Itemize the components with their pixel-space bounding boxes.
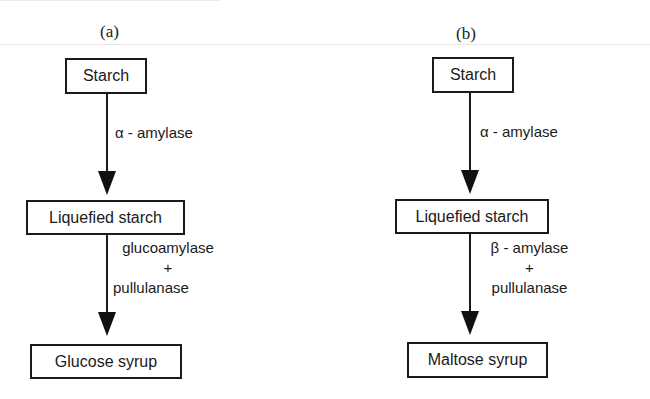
panel-a-arrow-1-head-icon [98,171,116,195]
panel-b-step-maltose-syrup: Maltose syrup [407,342,548,378]
panel-b-arrow-1-head-icon [461,170,479,194]
panel-b-enzyme-2-line-2: + [482,258,577,278]
header-rule [0,44,650,45]
panel-b-arrow-2-head-icon [461,311,479,335]
panel-a-arrow-2-shaft [106,235,108,315]
panel-b-enzyme-2-line-1: β - amylase [482,238,577,258]
panel-b-label: (b) [456,24,476,44]
panel-a-step-liquefied-starch: Liquefied starch [26,200,185,235]
panel-b-arrow-2-shaft [469,234,471,314]
panel-b-enzyme-2: β - amylase + pullulanase [482,238,577,298]
panel-a-step-starch: Starch [65,58,147,94]
panel-b-enzyme-2-line-3: pullulanase [482,278,577,298]
panel-b-arrow-1-shaft [469,93,471,173]
panel-b-step-liquefied-starch: Liquefied starch [395,199,549,234]
top-rule [0,0,220,1]
panel-a-enzyme-1: α - amylase [115,123,193,143]
panel-a-enzyme-2-line-3: pullulanase [113,278,223,298]
panel-a-enzyme-2: glucoamylase + pullulanase [113,238,223,298]
panel-b-enzyme-1: α - amylase [480,122,558,142]
panel-a-arrow-1-shaft [106,94,108,174]
panel-a-enzyme-2-line-2: + [113,258,223,278]
panel-a-label: (a) [100,22,119,42]
panel-a-step-glucose-syrup: Glucose syrup [30,344,182,379]
panel-b-step-starch: Starch [432,57,514,93]
panel-a-enzyme-2-line-1: glucoamylase [113,238,223,258]
panel-a-arrow-2-head-icon [98,312,116,336]
